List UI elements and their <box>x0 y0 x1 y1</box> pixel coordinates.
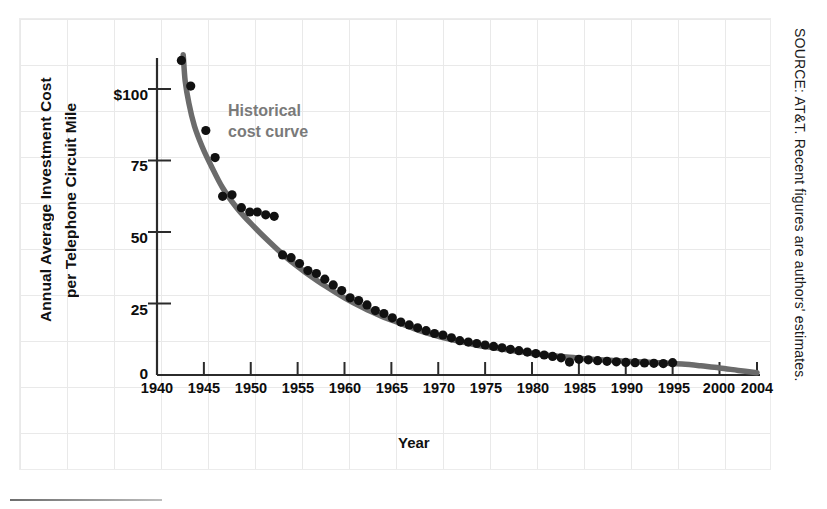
data-point <box>640 358 649 367</box>
data-point <box>621 358 630 367</box>
data-point <box>447 333 456 342</box>
cost-curve-chart <box>0 0 827 509</box>
data-point <box>379 309 388 318</box>
data-point <box>227 190 236 199</box>
data-point <box>438 330 447 339</box>
data-point <box>531 349 540 358</box>
data-point <box>303 266 312 275</box>
data-point <box>186 82 195 91</box>
data-point <box>201 126 210 135</box>
data-point <box>631 358 640 367</box>
data-point <box>405 320 414 329</box>
data-point <box>649 359 658 368</box>
data-point <box>612 357 621 366</box>
data-point <box>668 358 677 367</box>
data-point <box>371 306 380 315</box>
data-point <box>602 357 611 366</box>
data-point <box>422 326 431 335</box>
data-point <box>396 318 405 327</box>
data-point <box>388 313 397 322</box>
data-point <box>455 336 464 345</box>
data-point <box>540 350 549 359</box>
data-point <box>584 355 593 364</box>
data-point <box>574 355 583 364</box>
data-point <box>430 329 439 338</box>
data-point <box>506 345 515 354</box>
data-point <box>278 250 287 259</box>
y-axis-tick-marks <box>148 89 171 304</box>
data-point <box>464 338 473 347</box>
source-note: SOURCE: AT&T. Recent figures are authors… <box>784 28 808 488</box>
bottom-divider <box>10 499 162 501</box>
data-point <box>261 210 270 219</box>
data-point <box>565 358 574 367</box>
data-point-markers <box>177 56 677 368</box>
data-point <box>270 212 279 221</box>
data-point <box>346 293 355 302</box>
data-point <box>413 323 422 332</box>
data-point <box>312 269 321 278</box>
data-point <box>253 207 262 216</box>
data-point <box>287 253 296 262</box>
data-point <box>497 343 506 352</box>
data-point <box>320 275 329 284</box>
data-point <box>523 348 532 357</box>
data-point <box>295 259 304 268</box>
data-point <box>354 296 363 305</box>
data-point <box>337 286 346 295</box>
data-point <box>481 340 490 349</box>
data-point <box>489 342 498 351</box>
data-point <box>177 56 186 65</box>
data-point <box>557 353 566 362</box>
data-point <box>237 203 246 212</box>
data-point <box>211 153 220 162</box>
data-point <box>514 346 523 355</box>
data-point <box>659 359 668 368</box>
data-point <box>593 356 602 365</box>
data-point <box>472 339 481 348</box>
data-point <box>329 280 338 289</box>
data-point <box>548 352 557 361</box>
data-point <box>218 192 227 201</box>
data-point <box>362 300 371 309</box>
